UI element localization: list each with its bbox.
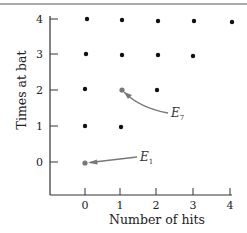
arrow-e1 — [88, 157, 137, 165]
x-tick-label: 1 — [117, 199, 124, 212]
x-ticks: 0 1 2 3 4 — [82, 188, 234, 212]
y-tick-label: 2 — [36, 84, 43, 97]
sample-points — [83, 17, 234, 129]
y-axis-title: Times at bat — [14, 51, 29, 130]
sample-space-diagram: 4 3 2 1 0 0 1 2 3 4 Number of hits Times… — [0, 0, 247, 233]
event-e7-point — [119, 87, 124, 92]
x-tick-label: 2 — [153, 199, 160, 212]
event-e1-label: E1 — [139, 150, 153, 166]
event-e7-label: E7 — [170, 106, 184, 122]
y-tick-label: 0 — [36, 156, 43, 169]
x-tick-label: 4 — [227, 199, 234, 212]
event-e1-point — [82, 160, 87, 165]
x-tick-label: 0 — [82, 199, 89, 212]
y-ticks: 4 3 2 1 0 — [36, 13, 58, 169]
y-tick-label: 4 — [36, 13, 43, 26]
x-axis-title: Number of hits — [109, 212, 205, 227]
y-tick-label: 1 — [36, 120, 43, 133]
x-tick-label: 3 — [190, 199, 197, 212]
y-tick-label: 3 — [36, 48, 43, 61]
arrow-e7 — [124, 92, 168, 113]
